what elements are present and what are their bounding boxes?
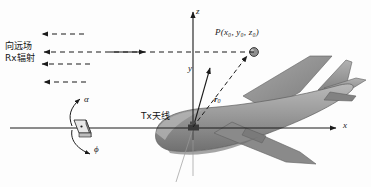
angle-marker-group	[70, 99, 91, 154]
vector-r0-subscript: 0	[218, 98, 221, 104]
tx-antenna-label: Tx天线	[141, 112, 170, 121]
axis-label-x: x	[343, 121, 347, 130]
angle-alpha-label: α	[84, 95, 89, 104]
far-field-arrow-group	[42, 34, 254, 82]
axis-label-z: z	[196, 7, 200, 16]
diagram-svg	[0, 0, 371, 187]
figure-canvas: z y x P(x₀, y₀, z₀) r0 α ϕ Tx天线 向远场 Rx辐射	[0, 0, 371, 187]
vector-r0-label: r0	[214, 95, 220, 105]
axis-label-y: y	[188, 64, 192, 73]
rx-radiation-label: Rx辐射	[5, 54, 35, 63]
far-field-label: 向远场	[5, 42, 32, 51]
aircraft-tailplane-near	[324, 92, 356, 101]
angle-phi-label: ϕ	[94, 145, 99, 154]
point-P-label: P(x₀, y₀, z₀)	[215, 28, 259, 37]
